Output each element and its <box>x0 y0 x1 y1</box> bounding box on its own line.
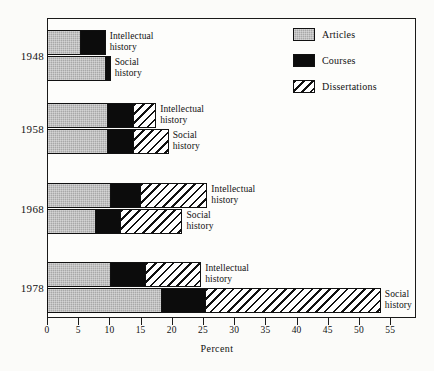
x-tick-5 <box>78 318 79 325</box>
x-tick-label-10: 10 <box>104 325 114 335</box>
x-tick-0 <box>47 318 48 325</box>
x-tick-15 <box>141 318 142 325</box>
x-tick-45 <box>328 318 329 325</box>
x-tick-25 <box>203 318 204 325</box>
x-tick-50 <box>359 318 360 325</box>
x-tick-20 <box>172 318 173 325</box>
x-tick-35 <box>265 318 266 325</box>
legend-item-articles[interactable]: Articles <box>293 28 377 41</box>
legend-swatch-dissertations-icon <box>293 80 315 93</box>
x-tick-55 <box>390 318 391 325</box>
x-tick-label-5: 5 <box>76 325 81 335</box>
x-tick-label-30: 30 <box>229 325 239 335</box>
x-tick-label-35: 35 <box>260 325 270 335</box>
x-tick-label-15: 15 <box>136 325 146 335</box>
legend-item-dissertations[interactable]: Dissertations <box>293 80 377 93</box>
legend-label-articles: Articles <box>322 29 355 40</box>
x-tick-label-0: 0 <box>45 325 50 335</box>
x-tick-label-40: 40 <box>292 325 302 335</box>
legend-label-courses: Courses <box>322 55 356 66</box>
x-tick-label-25: 25 <box>198 325 208 335</box>
x-axis-title: Percent <box>0 343 434 354</box>
chart-page: Intellectual historySocial historyIntell… <box>0 0 434 371</box>
x-tick-label-50: 50 <box>354 325 364 335</box>
legend-label-dissertations: Dissertations <box>322 81 377 92</box>
legend-swatch-courses-icon <box>293 54 315 67</box>
x-tick-label-45: 45 <box>323 325 333 335</box>
chart-legend: Articles Courses Dissertations <box>293 28 377 106</box>
legend-item-courses[interactable]: Courses <box>293 54 377 67</box>
x-tick-10 <box>109 318 110 325</box>
x-tick-label-20: 20 <box>167 325 177 335</box>
x-tick-30 <box>234 318 235 325</box>
x-tick-40 <box>297 318 298 325</box>
x-tick-label-55: 55 <box>385 325 395 335</box>
legend-swatch-articles-icon <box>293 28 315 41</box>
